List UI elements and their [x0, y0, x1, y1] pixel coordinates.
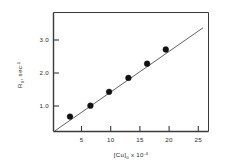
y-axis-title: R0, sec-1: [16, 61, 25, 88]
y-tick-label-1: 1.0: [39, 102, 49, 109]
x-axis-title: [Cu]0 x 10-4: [114, 151, 149, 160]
data-points: [67, 47, 169, 120]
x-tick-label-25: 25: [195, 136, 203, 143]
y-axis-title-sup: -1: [16, 61, 21, 66]
y-tick-label-3: 3.0: [39, 36, 49, 43]
data-point: [163, 47, 169, 53]
x-tick-label-10: 10: [107, 136, 115, 143]
y-axis-title-text: R0, sec-1: [16, 61, 25, 88]
x-axis-title-sup: -4: [144, 151, 149, 156]
y-tick-labels: 3.0 2.0 1.0: [39, 36, 49, 109]
x-axis-ticks: [82, 126, 199, 132]
x-tick-labels: 5 10 15 20 25: [80, 136, 203, 143]
x-tick-label-20: 20: [165, 136, 173, 143]
data-point: [144, 61, 150, 67]
scatter-plot-svg: 3.0 2.0 1.0 5 10 15 20 25 R0, sec-1: [0, 0, 229, 168]
x-axis-title-mid: x 10: [129, 151, 144, 158]
plot-frame: [54, 13, 209, 132]
data-point: [67, 114, 73, 120]
y-axis-ticks: [54, 40, 60, 106]
x-axis-title-main: [Cu]: [114, 151, 127, 158]
y-axis-title-mid: , sec: [16, 66, 23, 81]
chart-figure: 3.0 2.0 1.0 5 10 15 20 25 R0, sec-1: [0, 0, 229, 168]
x-tick-label-15: 15: [136, 136, 144, 143]
data-point: [106, 89, 112, 95]
y-tick-label-2: 2.0: [39, 69, 49, 76]
x-tick-label-5: 5: [80, 136, 84, 143]
data-point: [88, 103, 94, 109]
data-point: [125, 75, 131, 81]
